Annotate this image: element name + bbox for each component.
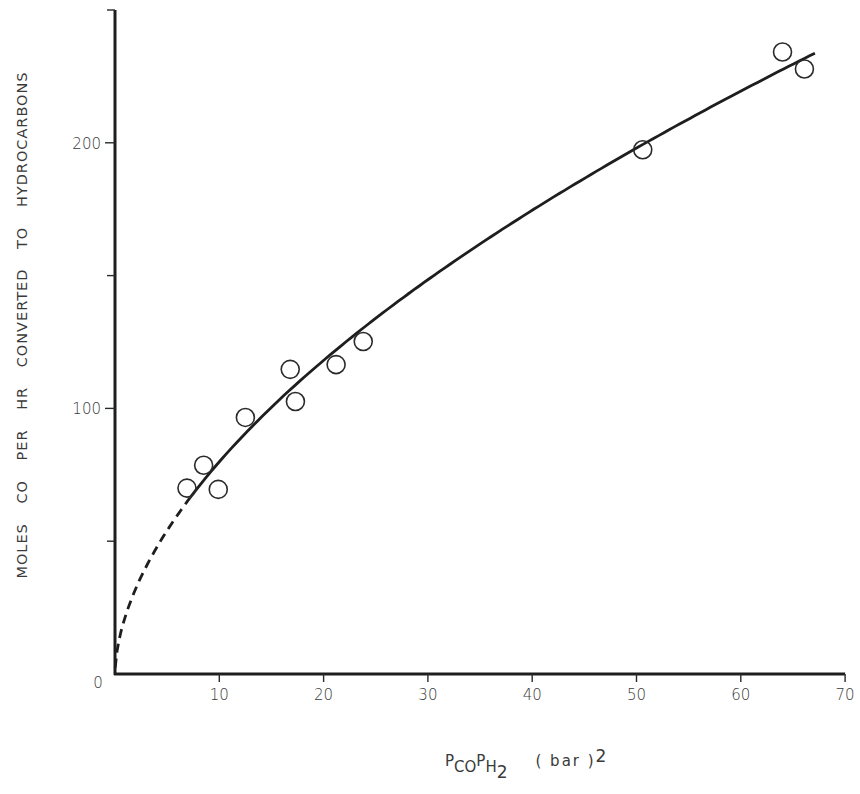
data-point-circle [774, 43, 792, 61]
x-tick-label: 60 [731, 686, 750, 704]
x-label-sub-h: H [485, 758, 496, 776]
x-tick-label: 20 [314, 686, 333, 704]
data-point-circle [195, 456, 213, 474]
x-tick-label: 10 [210, 686, 229, 704]
data-point-circle [354, 332, 372, 350]
data-point-circle [236, 408, 254, 426]
axes [114, 10, 845, 675]
data-points [178, 43, 813, 498]
x-label-sub-2: 2 [497, 762, 508, 782]
data-point-circle [281, 360, 299, 378]
x-label-unit: ( bar ) [535, 752, 595, 770]
y-axis-label: MOLES CO PER HR CONVERTED TO HYDROCARBON… [14, 71, 30, 578]
solid-fit-line [190, 53, 815, 498]
y-tick-label: 200 [72, 135, 101, 153]
data-point-circle [327, 356, 345, 374]
x-label-p1: P [445, 752, 454, 770]
dashed-extrapolation [115, 498, 190, 668]
data-point-circle [178, 479, 196, 497]
chart-canvas: 102030405060700100200 [0, 0, 860, 794]
tick-marks: 102030405060700100200 [72, 10, 854, 704]
x-label-exponent: 2 [596, 746, 607, 766]
x-tick-label: 70 [836, 686, 855, 704]
data-point-circle [209, 480, 227, 498]
x-tick-label: 30 [418, 686, 437, 704]
y-tick-label: 0 [93, 674, 103, 692]
x-tick-label: 50 [627, 686, 646, 704]
x-axis-label: PCOPH2( bar )2 [445, 750, 606, 770]
data-point-circle [795, 60, 813, 78]
fitted-curve [115, 53, 815, 667]
x-label-sub-co: CO [454, 758, 476, 776]
x-tick-label: 40 [523, 686, 542, 704]
data-point-circle [286, 392, 304, 410]
y-tick-label: 100 [72, 400, 101, 418]
